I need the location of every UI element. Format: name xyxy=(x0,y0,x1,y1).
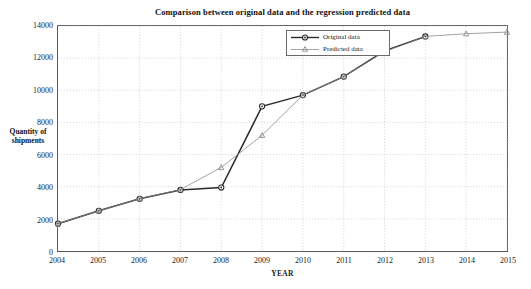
chart-legend: Original data Predicted data xyxy=(286,30,390,56)
y-axis-title-line1: Quantity of xyxy=(10,127,47,136)
x-tick-label: 2005 xyxy=(90,256,106,265)
x-tick-label: 2008 xyxy=(213,256,229,265)
chart-title: Comparison between original data and the… xyxy=(57,7,508,17)
x-axis-title: YEAR xyxy=(57,269,508,278)
y-tick-label: 12000 xyxy=(33,53,53,62)
y-tick-label: 6000 xyxy=(37,150,53,159)
y-tick-label: 4000 xyxy=(37,183,53,192)
x-tick-label: 2007 xyxy=(172,256,188,265)
x-tick-label: 2013 xyxy=(418,256,434,265)
y-tick-label: 8000 xyxy=(37,118,53,127)
legend-label-predicted: Predicted data xyxy=(323,45,363,53)
x-tick-label: 2006 xyxy=(131,256,147,265)
data-series-layer xyxy=(58,26,507,251)
x-tick-label: 2004 xyxy=(49,256,65,265)
x-tick-label: 2015 xyxy=(500,256,516,265)
y-tick-label: 10000 xyxy=(33,85,53,94)
legend-item-predicted[interactable]: Predicted data xyxy=(287,43,389,56)
y-tick-label: 2000 xyxy=(37,215,53,224)
y-axis-title: Quantity of shipments xyxy=(2,127,54,145)
x-tick-label: 2010 xyxy=(295,256,311,265)
x-tick-label: 2014 xyxy=(459,256,475,265)
plot-area xyxy=(57,25,508,252)
x-tick-label: 2011 xyxy=(336,256,352,265)
x-tick-label: 2012 xyxy=(377,256,393,265)
legend-marker-triangle-icon xyxy=(290,43,320,56)
legend-label-original: Original data xyxy=(323,33,360,41)
chart-figure: Comparison between original data and the… xyxy=(0,0,531,289)
y-tick-label: 14000 xyxy=(33,21,53,30)
y-axis-title-line2: shipments xyxy=(12,136,45,145)
x-tick-label: 2009 xyxy=(254,256,270,265)
